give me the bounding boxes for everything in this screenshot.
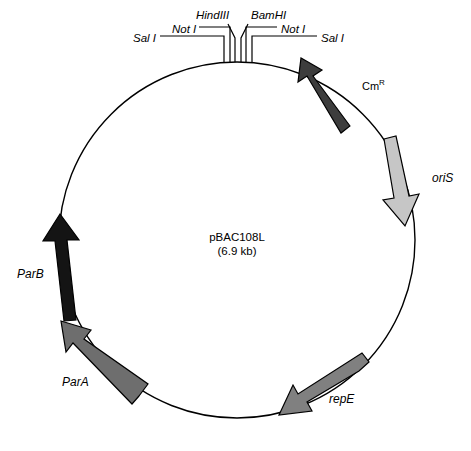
hindiii-leader xyxy=(228,24,235,62)
bamhi-leader xyxy=(241,24,248,62)
gene-label-cm-r: CmR xyxy=(362,77,385,92)
restriction-site-label-not-i-left: Not I xyxy=(172,23,196,35)
gene-label-ori-s: oriS xyxy=(432,172,453,184)
gene-label-cm-r-superscript: R xyxy=(379,78,385,87)
restriction-site-label-sal-i-right: Sal I xyxy=(321,32,344,44)
restriction-site-label-hindiii: HindIII xyxy=(196,9,229,21)
restriction-site-label-not-i-right: Not I xyxy=(281,23,305,35)
plasmid-map-figure: Sal I Not I HindIII BamHI Not I Sal I Cm… xyxy=(0,0,471,451)
restriction-site-label-sal-i-left: Sal I xyxy=(133,32,156,44)
gene-label-rep-e: repE xyxy=(329,393,354,405)
plasmid-name: pBAC108L xyxy=(187,230,287,244)
not-i-right-leader xyxy=(246,27,277,62)
gene-label-par-b: ParB xyxy=(17,268,44,280)
gene-label-par-a: ParA xyxy=(62,376,89,388)
cm-r-gene-arrow xyxy=(298,58,350,133)
sal-i-right-leader xyxy=(252,36,317,63)
rep-e-gene-arrow xyxy=(279,353,369,415)
not-i-left-leader xyxy=(199,27,230,62)
sal-i-left-leader xyxy=(160,36,224,63)
ori-s-gene-arrow xyxy=(383,136,419,226)
par-a-gene-arrow xyxy=(61,321,148,404)
plasmid-center-label: pBAC108L (6.9 kb) xyxy=(187,230,287,258)
gene-label-cm-r-text: Cm xyxy=(362,80,379,92)
restriction-site-label-bamhi: BamHI xyxy=(251,9,286,21)
plasmid-size: (6.9 kb) xyxy=(187,244,287,258)
par-b-gene-arrow xyxy=(43,214,79,321)
